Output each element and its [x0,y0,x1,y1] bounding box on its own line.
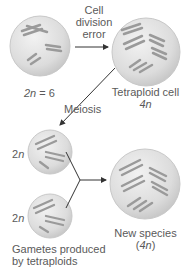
label-gamete-2: 2n [12,212,24,224]
new-species-cell [110,149,180,219]
arrow-meiosis [60,68,115,125]
label-gamete-1: 2n [12,148,24,160]
label-line: division [74,16,114,28]
gamete-cell-1 [28,130,72,174]
label-line: Gametes produced [12,243,106,255]
label-line: Tetraploid cell [108,86,183,98]
label-line: by tetraploids [12,255,106,267]
tetraploid-cell [112,18,180,86]
label-line: error [74,28,114,40]
label-cell-division: Cell division error [74,4,114,40]
gamete-cell-2 [28,194,72,238]
parent-cell [10,16,70,76]
label-tetraploid: Tetraploid cell 4n [108,86,183,110]
label-gametes: Gametes produced by tetraploids [12,243,106,267]
label-new-species: New species (4n) [108,227,183,251]
label-line: Cell [74,4,114,16]
label-line: New species [108,227,183,239]
label-parent-cell: 2n = 6 [24,87,55,99]
label-meiosis: Meiosis [64,103,101,115]
label-line: (4n) [108,239,183,251]
label-line: 4n [108,98,183,110]
